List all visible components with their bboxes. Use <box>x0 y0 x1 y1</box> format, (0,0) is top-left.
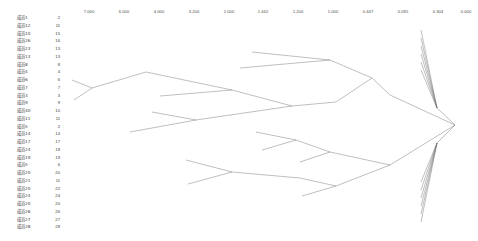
dendrogram-link <box>232 172 300 178</box>
dendrogram-link <box>196 106 292 120</box>
dendrogram-link <box>160 90 232 96</box>
dendrogram-link <box>437 108 455 125</box>
dendrogram-link <box>421 54 437 108</box>
dendrogram-link <box>421 143 437 214</box>
dendrogram-link <box>336 78 372 102</box>
dendrogram-link <box>74 88 92 100</box>
dendrogram-link <box>421 143 437 198</box>
dendrogram-link <box>300 178 336 186</box>
dendrogram-link <box>421 143 437 206</box>
dendrogram-link <box>390 125 455 165</box>
dendrogram-link <box>186 160 232 172</box>
dendrogram-link <box>330 60 372 78</box>
dendrogram-link <box>302 186 336 196</box>
dendrogram-link <box>421 46 437 108</box>
dendrogram-link <box>300 152 330 162</box>
dendrogram-link <box>336 165 390 186</box>
dendrogram-link <box>421 70 437 108</box>
dendrogram-links <box>0 0 478 241</box>
dendrogram-link <box>152 112 196 120</box>
dendrogram-link <box>421 38 437 108</box>
dendrogram-figure: 7.000 6.000 4.000 3.200 2.000 1.442 1.20… <box>0 0 478 241</box>
dendrogram-link <box>296 140 330 152</box>
dendrogram-link <box>390 95 455 125</box>
dendrogram-link <box>256 132 296 140</box>
dendrogram-link <box>232 90 292 106</box>
dendrogram-link <box>188 172 232 184</box>
dendrogram-link <box>330 152 390 165</box>
dendrogram-link <box>262 140 296 150</box>
dendrogram-link <box>240 60 330 68</box>
dendrogram-link <box>92 72 146 88</box>
dendrogram-link <box>292 102 336 106</box>
dendrogram-link <box>437 125 455 143</box>
dendrogram-link <box>252 52 330 60</box>
dendrogram-link <box>146 72 232 90</box>
dendrogram-link <box>72 80 92 88</box>
dendrogram-link <box>130 120 196 132</box>
dendrogram-link <box>421 143 437 182</box>
dendrogram-link <box>372 78 390 95</box>
